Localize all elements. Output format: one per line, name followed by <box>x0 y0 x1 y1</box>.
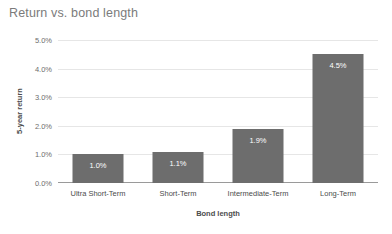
bar-group: 1.0%Ultra Short-Term <box>58 40 138 183</box>
bar[interactable]: 1.9% <box>233 129 284 183</box>
y-axis-tick-label: 4.0% <box>35 64 52 73</box>
bar[interactable]: 4.5% <box>313 54 364 183</box>
x-axis-tick-label: Intermediate-Term <box>228 189 289 198</box>
bar-group: 4.5%Long-Term <box>298 40 378 183</box>
bar-value-label: 1.1% <box>153 159 204 168</box>
y-axis-title: 5-year return <box>15 88 24 134</box>
chart-title: Return vs. bond length <box>9 6 138 20</box>
bar-value-label: 1.9% <box>233 136 284 145</box>
x-axis-tick-label: Short-Term <box>159 189 196 198</box>
y-axis-tick-label: 1.0% <box>35 150 52 159</box>
bar-group: 1.1%Short-Term <box>138 40 218 183</box>
bar[interactable]: 1.0% <box>73 154 124 183</box>
x-axis-tick-label: Long-Term <box>320 189 356 198</box>
bars-layer: 1.0%Ultra Short-Term1.1%Short-Term1.9%In… <box>58 40 378 183</box>
bar-chart: Return vs. bond length 0.0%1.0%2.0%3.0%4… <box>0 0 392 234</box>
bar-group: 1.9%Intermediate-Term <box>218 40 298 183</box>
bar-value-label: 1.0% <box>73 161 124 170</box>
y-axis-tick-label: 2.0% <box>35 121 52 130</box>
y-axis-tick-label: 5.0% <box>35 36 52 45</box>
bar-value-label: 4.5% <box>313 61 364 70</box>
bar[interactable]: 1.1% <box>153 152 204 183</box>
plot-area: 0.0%1.0%2.0%3.0%4.0%5.0% 1.0%Ultra Short… <box>58 40 378 183</box>
x-axis-title: Bond length <box>58 209 378 218</box>
y-axis-tick-label: 3.0% <box>35 93 52 102</box>
x-axis-tick-label: Ultra Short-Term <box>70 189 125 198</box>
y-axis-tick-label: 0.0% <box>35 179 52 188</box>
